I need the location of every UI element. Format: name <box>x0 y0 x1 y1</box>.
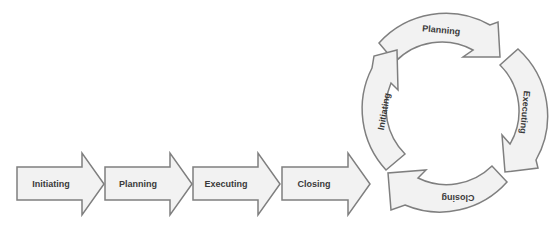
linear-step-initiating: Initiating <box>17 153 104 215</box>
linear-step-planning: Planning <box>105 153 192 215</box>
step-label: Planning <box>119 179 157 189</box>
linear-step-executing: Executing <box>193 153 280 215</box>
step-label: Closing <box>298 179 331 189</box>
linear-step-closing: Closing <box>282 153 370 215</box>
curved-arrow-shape-icon <box>388 166 507 212</box>
cycle-step-initiating: Initiating <box>362 50 405 170</box>
step-label: Executing <box>204 179 247 189</box>
step-label: Initiating <box>32 179 70 189</box>
process-diagram: Initiating Planning Executing Closing Pl… <box>0 0 554 227</box>
step-label: Closing <box>442 193 475 203</box>
cycle-step-closing: Closing <box>388 166 507 212</box>
cycle-step-executing: Executing <box>500 49 548 172</box>
